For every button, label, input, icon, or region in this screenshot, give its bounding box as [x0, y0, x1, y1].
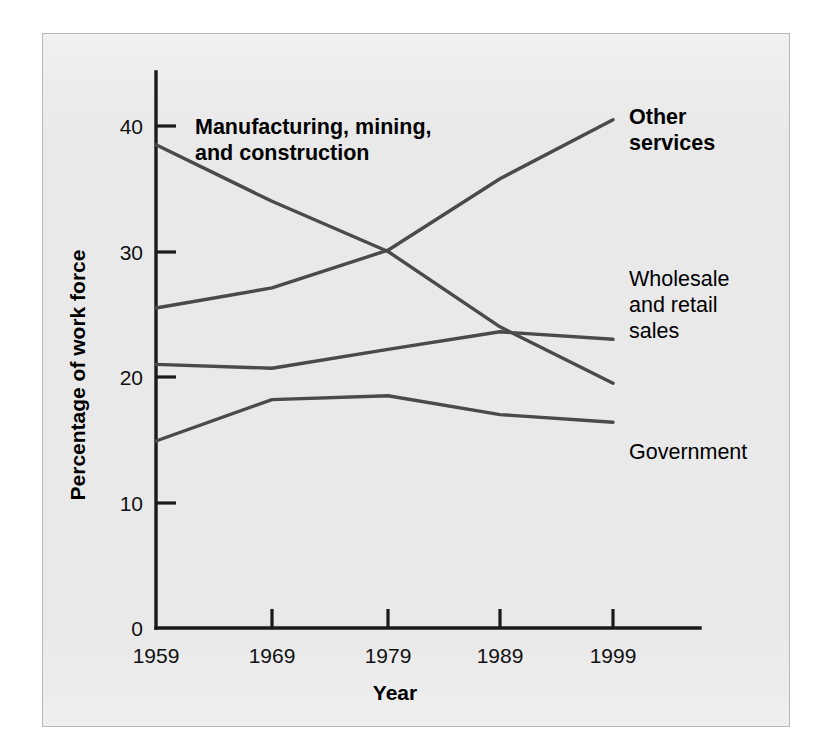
series-label-other-services-line1: Other: [629, 105, 687, 129]
series-line-manufacturing: [156, 145, 613, 383]
y-tick-label-10: 10: [120, 492, 143, 515]
y-tick-label-30: 30: [120, 241, 143, 264]
x-axis-title: Year: [373, 681, 417, 704]
y-tick-label-40: 40: [120, 115, 143, 138]
series-label-wholesale-retail: Wholesale and retail sales: [629, 267, 729, 343]
y-axis-title: Percentage of work force: [66, 250, 89, 501]
y-tick-label-0: 0: [131, 617, 143, 640]
series-label-other-services: Other services: [629, 105, 715, 155]
series-label-other-services-line2: services: [629, 131, 715, 155]
x-tick-label-1979: 1979: [365, 644, 412, 667]
series-label-government-line1: Government: [629, 440, 747, 464]
y-tick-labels: 40 30 20 10 0: [120, 115, 143, 640]
series-label-wholesale-line3: sales: [629, 319, 679, 343]
x-tick-label-1959: 1959: [133, 644, 180, 667]
series-label-manufacturing: Manufacturing, mining, and construction: [195, 115, 432, 165]
x-tick-label-1969: 1969: [249, 644, 296, 667]
x-tick-label-1999: 1999: [590, 644, 637, 667]
x-tick-label-1989: 1989: [477, 644, 524, 667]
line-chart: 40 30 20 10 0 1959 1969 1979 1989 1999 Y…: [0, 0, 824, 755]
series-lines: [156, 120, 613, 441]
series-label-manufacturing-line1: Manufacturing, mining,: [195, 115, 432, 139]
series-label-wholesale-line1: Wholesale: [629, 267, 729, 291]
y-tick-label-20: 20: [120, 366, 143, 389]
series-line-government: [156, 396, 613, 441]
series-label-government: Government: [629, 440, 747, 464]
x-tick-labels: 1959 1969 1979 1989 1999: [133, 644, 637, 667]
series-label-wholesale-line2: and retail: [629, 293, 717, 317]
series-label-manufacturing-line2: and construction: [195, 141, 369, 165]
